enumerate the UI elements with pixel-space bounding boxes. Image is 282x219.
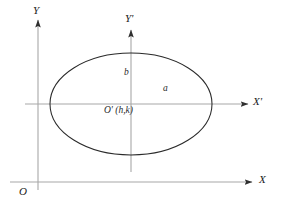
semi-minor-axis-label: b bbox=[124, 68, 129, 78]
y-axis-label: Y bbox=[33, 5, 39, 16]
origin-label: O bbox=[19, 186, 27, 197]
x-axis-label: X bbox=[259, 174, 266, 185]
y-prime-axis-label: Y' bbox=[125, 13, 133, 24]
ellipse-center-label: O' (h,k) bbox=[104, 106, 133, 116]
figure-canvas bbox=[0, 0, 282, 219]
semi-major-axis-label: a bbox=[163, 84, 168, 94]
geometry-figure: Y Y' X' X O b a O' (h,k) bbox=[0, 0, 282, 219]
x-prime-axis-label: X' bbox=[253, 96, 262, 107]
